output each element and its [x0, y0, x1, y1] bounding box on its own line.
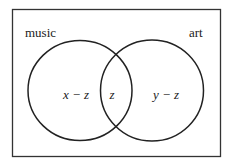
- art-set-label: art: [189, 25, 203, 40]
- music-only-region-label: x − z: [62, 87, 89, 102]
- art-only-region-label: y − z: [151, 87, 179, 102]
- venn-diagram: music art x − z z y − z: [0, 0, 234, 163]
- music-set-label: music: [25, 25, 56, 40]
- intersection-region-label: z: [108, 87, 114, 102]
